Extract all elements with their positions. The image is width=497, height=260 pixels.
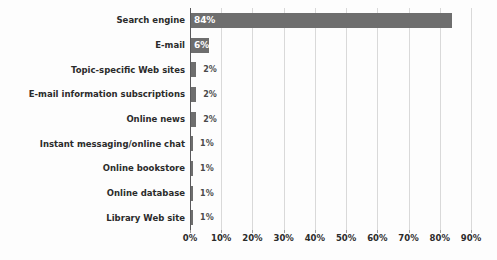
category-label: Instant messaging/online chat <box>40 140 185 149</box>
bar-row: 2% <box>190 62 471 77</box>
bar[interactable] <box>190 13 452 28</box>
bar-row: 2% <box>190 112 471 127</box>
bar-row: 1% <box>190 210 471 225</box>
x-tick-label: 40% <box>305 233 325 243</box>
category-axis-line <box>190 8 191 230</box>
bar-value-label: 1% <box>200 213 214 222</box>
category-label: Online news <box>126 115 185 124</box>
x-tick-label: 90% <box>461 233 481 243</box>
bar-series: 84%6%2%2%2%1%1%1%1% <box>190 8 471 230</box>
x-tick-label: 60% <box>367 233 387 243</box>
category-label: Library Web site <box>106 214 185 223</box>
x-tick-label: 80% <box>430 233 450 243</box>
bar-row: 1% <box>190 161 471 176</box>
bar-row: 2% <box>190 87 471 102</box>
category-label: Online database <box>107 189 185 198</box>
gridline <box>471 8 472 230</box>
x-axis-tick-labels: 0%10%20%30%40%50%60%70%80%90% <box>190 233 471 249</box>
bar-value-label: 2% <box>203 90 217 99</box>
category-label: E-mail <box>155 41 185 50</box>
bar-value-label: 2% <box>203 65 217 74</box>
x-tick-label: 10% <box>211 233 231 243</box>
bar-row: 1% <box>190 186 471 201</box>
bar-value-label: 1% <box>200 164 214 173</box>
bar-row: 84% <box>190 13 471 28</box>
x-tick-label: 70% <box>398 233 418 243</box>
bar-value-label: 1% <box>200 139 214 148</box>
bar-row: 6% <box>190 38 471 53</box>
bar-chart: 84%6%2%2%2%1%1%1%1% Search engineE-mailT… <box>0 0 497 260</box>
bar-value-label: 2% <box>203 115 217 124</box>
bar-value-label: 84% <box>194 15 215 25</box>
x-tick-label: 50% <box>336 233 356 243</box>
category-label: Online bookstore <box>103 164 185 173</box>
x-tick-label: 20% <box>242 233 262 243</box>
category-axis-labels: Search engineE-mailTopic-specific Web si… <box>0 8 185 230</box>
bar-row: 1% <box>190 136 471 151</box>
bar-value-label: 1% <box>200 189 214 198</box>
category-label: Topic-specific Web sites <box>71 66 185 75</box>
x-tick-label: 30% <box>273 233 293 243</box>
plot-area: 84%6%2%2%2%1%1%1%1% <box>190 8 471 230</box>
x-tick-label: 0% <box>183 233 197 243</box>
bar-value-label: 6% <box>194 40 209 50</box>
category-label: Search engine <box>117 16 186 25</box>
category-label: E-mail information subscriptions <box>29 90 185 99</box>
